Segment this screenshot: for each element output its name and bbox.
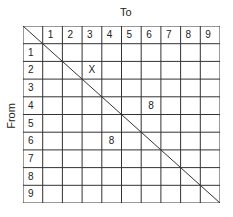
row-header-4: 4 (23, 97, 43, 115)
column-header-1: 1 (43, 26, 63, 44)
from-to-matrix: 123456789123456789X88 (23, 26, 220, 203)
column-header-8: 8 (181, 26, 201, 44)
to-axis-label: To (120, 6, 132, 18)
grid-lines (23, 26, 220, 203)
matrix-cell: 8 (141, 97, 161, 115)
matrix-cell: 8 (102, 132, 122, 150)
row-header-8: 8 (23, 168, 43, 186)
row-header-2: 2 (23, 61, 43, 79)
column-header-9: 9 (200, 26, 220, 44)
column-header-6: 6 (141, 26, 161, 44)
row-header-7: 7 (23, 150, 43, 168)
column-header-7: 7 (161, 26, 181, 44)
column-header-5: 5 (122, 26, 142, 44)
from-axis-label: From (5, 101, 17, 131)
column-header-2: 2 (62, 26, 82, 44)
matrix-cell: X (82, 61, 102, 79)
row-header-5: 5 (23, 115, 43, 133)
column-header-4: 4 (102, 26, 122, 44)
row-header-9: 9 (23, 185, 43, 203)
row-header-1: 1 (23, 44, 43, 62)
column-header-3: 3 (82, 26, 102, 44)
row-header-3: 3 (23, 79, 43, 97)
row-header-6: 6 (23, 132, 43, 150)
